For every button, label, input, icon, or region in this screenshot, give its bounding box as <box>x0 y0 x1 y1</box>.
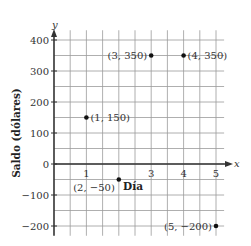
y-tick-label: 100 <box>30 128 49 139</box>
chart-figure: 4003002001000−100−2001345 (1, 150)(2, −5… <box>0 0 251 246</box>
data-point-label: (1, 150) <box>90 112 130 123</box>
data-point-label: (4, 350) <box>188 50 228 61</box>
x-axis-arrow-icon <box>225 161 233 167</box>
data-point-marker <box>149 53 154 58</box>
x-tick-label: 4 <box>180 168 186 179</box>
x-axis-label: Día <box>123 180 143 192</box>
y-tick-label: 400 <box>30 35 49 46</box>
data-point-label: (5, −200) <box>164 221 212 232</box>
y-tick-label: 0 <box>43 159 49 170</box>
y-axis-name: y <box>51 19 58 30</box>
data-points: (1, 150)(2, −50)(3, 350)(4, 350)(5, −200… <box>73 50 227 232</box>
data-point-marker <box>84 115 89 120</box>
y-axis-arrow-icon <box>51 29 57 37</box>
x-axis-name: x <box>234 158 240 169</box>
y-tick-label: −100 <box>22 190 49 201</box>
y-tick-label: 300 <box>30 66 49 77</box>
y-axis-label: Saldo (dólares) <box>10 88 22 178</box>
x-tick-label: 3 <box>148 168 154 179</box>
y-tick-label: 200 <box>30 97 49 108</box>
data-point-label: (3, 350) <box>108 50 148 61</box>
data-point-marker <box>214 224 219 229</box>
data-point-marker <box>181 53 186 58</box>
x-tick-label: 1 <box>83 168 89 179</box>
data-point-label: (2, −50) <box>73 182 115 193</box>
x-tick-label: 5 <box>213 168 219 179</box>
data-point-marker <box>117 177 122 182</box>
y-tick-label: −200 <box>22 221 49 232</box>
grid-lines <box>54 30 224 236</box>
